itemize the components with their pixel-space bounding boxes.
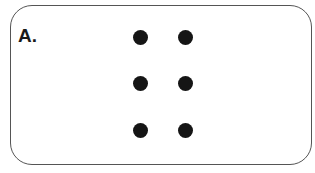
dot-icon [178, 123, 193, 138]
dot-icon [133, 123, 148, 138]
dot-icon [178, 30, 193, 45]
dot-icon [178, 76, 193, 91]
dot-icon [133, 76, 148, 91]
option-label: A. [18, 26, 37, 45]
option-panel-a [10, 5, 312, 165]
dot-icon [133, 30, 148, 45]
